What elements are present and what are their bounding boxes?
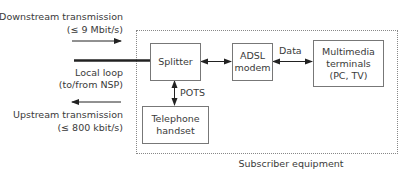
local-loop-title: Local loop [75, 67, 123, 79]
multimedia-label-line2: terminals [326, 58, 371, 70]
pots-label: POTS [180, 87, 205, 99]
multimedia-terminals-box: Multimedia terminals (PC, TV) [313, 40, 384, 87]
splitter-box: Splitter [150, 43, 201, 81]
multimedia-label-line1: Multimedia [322, 46, 375, 58]
telephone-label-line1: Telephone [151, 113, 199, 125]
splitter-label: Splitter [158, 56, 193, 68]
adsl-modem-box: ADSL modem [232, 43, 273, 81]
adsl-modem-label-line2: modem [234, 62, 270, 74]
adsl-modem-label-line1: ADSL [240, 50, 265, 62]
telephone-label-line2: handset [156, 125, 194, 137]
downstream-title: Downstream transmission [0, 11, 123, 23]
upstream-title: Upstream transmission [13, 109, 123, 121]
telephone-handset-box: Telephone handset [142, 106, 209, 144]
subscriber-equipment-caption: Subscriber equipment [216, 158, 366, 170]
local-loop-subtitle: (to/from NSP) [59, 79, 123, 91]
downstream-rate: (≤ 9 Mbit/s) [67, 24, 123, 36]
upstream-rate: (≤ 800 kbit/s) [57, 122, 123, 134]
multimedia-label-line3: (PC, TV) [329, 70, 367, 82]
data-label: Data [279, 45, 302, 57]
